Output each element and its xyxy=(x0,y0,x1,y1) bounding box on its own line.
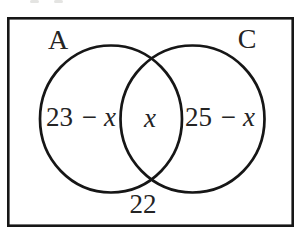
venn-figure: A C 23 −x x 25 −x 22 xyxy=(0,0,304,238)
region-a-only-expression: 23 −x xyxy=(46,104,116,131)
region-c-only-expression: 25 −x xyxy=(185,104,255,131)
region-outside-value: 22 xyxy=(130,191,157,218)
region-c-only-number: 25 − xyxy=(185,102,236,132)
region-intersection-expression: x xyxy=(144,105,156,132)
region-a-only-number: 23 − xyxy=(46,102,97,132)
set-label-a: A xyxy=(48,26,68,54)
region-a-only-variable: x xyxy=(104,102,116,132)
region-intersection-variable: x xyxy=(144,103,156,133)
region-c-only-variable: x xyxy=(243,102,255,132)
set-label-c: C xyxy=(238,25,257,53)
